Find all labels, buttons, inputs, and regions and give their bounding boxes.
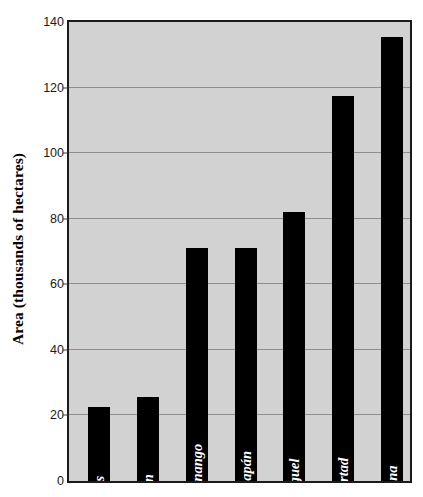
y-axis-tick-mark — [63, 218, 68, 219]
y-axis-tick-label: 100 — [34, 147, 64, 160]
plot-area: CabañasMorazánChalatenangoAhuachapánSan … — [67, 20, 412, 483]
bar: Morazán — [137, 397, 159, 481]
bar: Ahuachapán — [235, 248, 257, 481]
y-axis-tick-label: 80 — [34, 212, 64, 225]
bar-category-label-text: Cabañas — [92, 475, 107, 481]
y-axis-title-text: Area (thousands of hectares) — [9, 152, 27, 344]
y-axis-title: Area (thousands of hectares) — [0, 0, 36, 497]
gridline — [69, 87, 410, 88]
bar-category-label-text: La Libertad — [336, 457, 351, 481]
y-axis-ticks: 020406080100120140 — [34, 0, 64, 497]
bar-category-label: La Libertad — [336, 408, 351, 481]
bar-chart: Area (thousands of hectares) 02040608010… — [0, 0, 423, 497]
y-axis-tick-mark — [63, 349, 68, 350]
bar-category-label: Morazán — [141, 408, 156, 481]
bar-category-label-text: Morazán — [141, 474, 156, 481]
bar: Chalatenango — [186, 248, 208, 481]
gridline — [69, 152, 410, 153]
bar-category-label-text: Chalatenango — [190, 443, 205, 481]
bar: Cabañas — [88, 407, 110, 481]
bar-category-label-text: San Miguel — [287, 458, 302, 481]
y-axis-tick-label: 40 — [34, 344, 64, 357]
y-axis-tick-mark — [63, 153, 68, 154]
bar-category-label-text: Santa Ana — [384, 465, 399, 481]
bar-category-label: Santa Ana — [384, 408, 399, 481]
y-axis-tick-label: 140 — [34, 16, 64, 29]
bar-category-label: San Miguel — [287, 408, 302, 481]
y-axis-tick-label: 20 — [34, 409, 64, 422]
bar-category-label-text: Ahuachapán — [238, 450, 253, 481]
gridline — [69, 218, 410, 219]
y-axis-tick-label: 0 — [34, 475, 64, 488]
bar: La Libertad — [332, 96, 354, 481]
bar-category-label: Ahuachapán — [238, 408, 253, 481]
bar-category-label: Chalatenango — [190, 408, 205, 481]
y-axis-tick-mark — [63, 415, 68, 416]
bar: San Miguel — [283, 212, 305, 481]
bar-category-label: Cabañas — [92, 408, 107, 481]
y-axis-tick-label: 120 — [34, 81, 64, 94]
y-axis-tick-mark — [63, 284, 68, 285]
y-axis-tick-mark — [63, 87, 68, 88]
bar: Santa Ana — [381, 37, 403, 481]
y-axis-tick-label: 60 — [34, 278, 64, 291]
